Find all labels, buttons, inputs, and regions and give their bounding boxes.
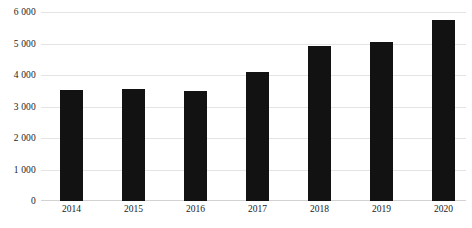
bar-2020 bbox=[432, 20, 455, 201]
x-tick-label-2020: 2020 bbox=[413, 203, 472, 215]
x-tick-label-2015: 2015 bbox=[103, 203, 165, 215]
y-tick-label: 4 000 bbox=[0, 71, 36, 81]
bar-chart: 6 000 5 000 4 000 3 000 2 000 1 000 0 20… bbox=[0, 0, 472, 228]
bar-2019 bbox=[370, 42, 393, 201]
bar-2017 bbox=[246, 72, 269, 201]
plot-area bbox=[41, 12, 466, 201]
y-tick-label: 2 000 bbox=[0, 134, 36, 144]
x-tick-label-2018: 2018 bbox=[289, 203, 351, 215]
y-tick-label: 3 000 bbox=[0, 103, 36, 113]
gridline-5000 bbox=[41, 44, 466, 45]
bar-2016 bbox=[184, 91, 207, 201]
y-tick-label: 1 000 bbox=[0, 166, 36, 176]
x-tick-label-2016: 2016 bbox=[165, 203, 227, 215]
gridline-6000 bbox=[41, 12, 466, 13]
x-tick-label-2014: 2014 bbox=[41, 203, 103, 215]
bar-2015 bbox=[122, 89, 145, 201]
x-tick-label-2017: 2017 bbox=[227, 203, 289, 215]
x-tick-label-2019: 2019 bbox=[351, 203, 413, 215]
y-tick-label: 0 bbox=[0, 197, 36, 207]
y-tick-label: 6 000 bbox=[0, 8, 36, 18]
bar-2018 bbox=[308, 46, 331, 201]
y-axis: 6 000 5 000 4 000 3 000 2 000 1 000 0 bbox=[0, 12, 36, 201]
x-axis: 2014 2015 2016 2017 2018 2019 2020 bbox=[41, 203, 466, 219]
bar-2014 bbox=[60, 90, 83, 201]
y-tick-label: 5 000 bbox=[0, 40, 36, 50]
